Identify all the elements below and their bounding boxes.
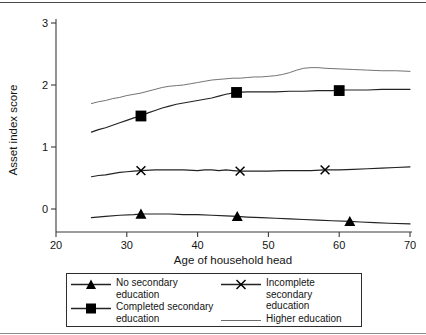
legend-label: No secondary education	[116, 277, 215, 300]
chart-canvas: 0123 203040506070 Asset index score Age …	[0, 0, 426, 270]
series-layer	[91, 68, 410, 224]
legend-entry[interactable]: Incomplete secondary education	[217, 277, 363, 312]
chart-legend: No secondary educationCompleted secondar…	[66, 273, 362, 327]
legend-key-triangle-icon	[70, 278, 112, 291]
legend-key-line-icon	[220, 314, 262, 327]
x-tick-label: 70	[404, 239, 416, 251]
series-marker-square	[231, 87, 242, 98]
axis-layer	[56, 19, 412, 232]
x-tick-label: 30	[121, 239, 133, 251]
legend-column-right: Incomplete secondary educationHigher edu…	[217, 274, 363, 328]
bottom-divider-rule	[0, 333, 426, 334]
x-axis-title: Age of household head	[174, 254, 292, 266]
x-tick-label: 50	[262, 239, 274, 251]
series-marker-square	[136, 111, 147, 122]
y-axis-ticks: 0123	[42, 17, 56, 215]
legend-entry[interactable]: Completed secondary education	[67, 301, 217, 324]
series-line	[91, 68, 410, 104]
y-tick-label: 0	[42, 203, 48, 215]
legend-entry[interactable]: No secondary education	[67, 277, 217, 300]
plot-area: 0123 203040506070 Asset index score Age …	[0, 0, 426, 270]
legend-label: Higher education	[266, 313, 342, 325]
y-tick-label: 2	[42, 79, 48, 91]
legend-key-square-icon	[70, 302, 112, 315]
legend-key-x-icon	[220, 278, 262, 291]
y-axis-title: Asset index score	[7, 85, 19, 176]
x-tick-label: 60	[333, 239, 345, 251]
figure-root: 0123 203040506070 Asset index score Age …	[0, 0, 426, 335]
legend-entry[interactable]: Higher education	[217, 313, 363, 327]
x-tick-label: 40	[191, 239, 203, 251]
y-tick-label: 3	[42, 17, 48, 29]
y-tick-label: 1	[42, 141, 48, 153]
x-tick-label: 20	[50, 239, 62, 251]
legend-label: Completed secondary education	[116, 301, 213, 324]
series-marker-square	[334, 85, 345, 96]
legend-column-left: No secondary educationCompleted secondar…	[67, 274, 217, 328]
legend-label: Incomplete secondary education	[266, 277, 361, 312]
x-axis-ticks: 203040506070	[50, 232, 416, 251]
